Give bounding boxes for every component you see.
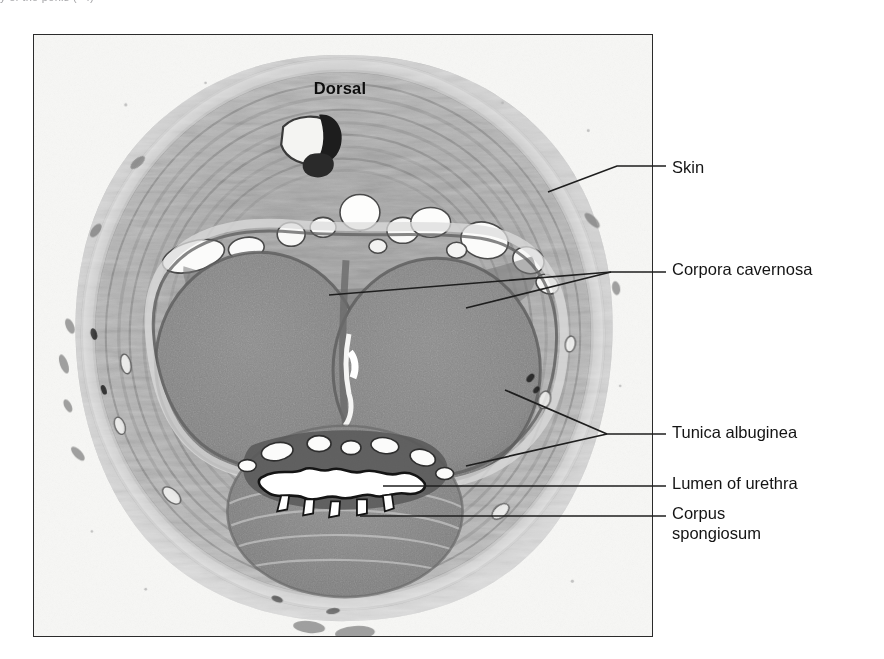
label-lumen-of-urethra: Lumen of urethra — [672, 473, 798, 493]
orientation-label-dorsal: Dorsal — [33, 79, 652, 98]
label-corpus-spongiosum: Corpus spongiosum — [672, 503, 761, 543]
label-skin: Skin — [672, 157, 704, 177]
label-corpora-cavernosa: Corpora cavernosa — [672, 259, 812, 279]
micrograph-image — [34, 35, 652, 636]
orientation-label-ventral: Ventral — [33, 633, 652, 637]
figure-caption-fragment: y of the penis (×4) — [0, 0, 884, 9]
micrograph-frame: Dorsal Ventral — [33, 34, 653, 637]
label-tunica-albuginea: Tunica albuginea — [672, 422, 797, 442]
